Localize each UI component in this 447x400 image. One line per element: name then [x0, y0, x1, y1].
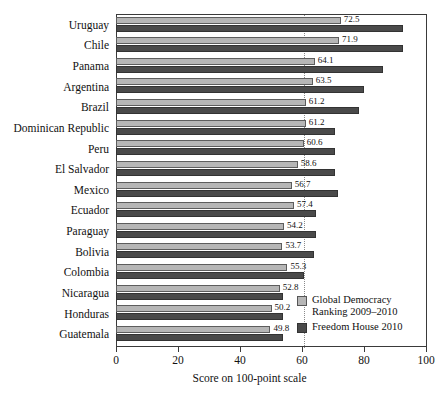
bar-global-democracy-ranking [116, 285, 280, 292]
bar-row: 58.6 [116, 159, 426, 180]
category-label: Brazil [0, 98, 112, 119]
bar-row: 61.2 [116, 118, 426, 139]
bar-row: 64.1 [116, 56, 426, 77]
category-label: Ecuador [0, 201, 112, 222]
bar-row: 54.2 [116, 221, 426, 242]
category-label: Guatemala [0, 324, 112, 345]
category-label: Bolivia [0, 242, 112, 263]
bar-row: 60.6 [116, 139, 426, 160]
bar-row: 61.2 [116, 98, 426, 119]
bar-freedom-house [116, 66, 383, 73]
bar-value-label: 54.2 [284, 219, 303, 231]
category-label: Argentina [0, 77, 112, 98]
category-label: Colombia [0, 263, 112, 284]
bar-value-label: 63.5 [313, 74, 332, 86]
bar-freedom-house [116, 251, 314, 258]
x-axis-tick [116, 347, 117, 352]
bar-value-label: 71.9 [339, 33, 358, 45]
legend-item: Global Democracy Ranking 2009–2010 [297, 294, 423, 318]
category-label: Chile [0, 36, 112, 57]
bar-value-label: 56.7 [292, 178, 311, 190]
category-label: Honduras [0, 304, 112, 325]
bar-global-democracy-ranking [116, 140, 304, 147]
bar-freedom-house [116, 107, 359, 114]
bar-value-label: 58.6 [298, 157, 317, 169]
bar-row: 56.7 [116, 180, 426, 201]
bar-chart: UruguayChilePanamaArgentinaBrazilDominic… [0, 0, 447, 400]
bar-value-label: 72.5 [341, 13, 360, 25]
bar-global-democracy-ranking [116, 37, 339, 44]
bar-row: 55.3 [116, 263, 426, 284]
category-label: Paraguay [0, 221, 112, 242]
bar-global-democracy-ranking [116, 120, 306, 127]
bar-value-label: 61.2 [306, 116, 325, 128]
bar-value-label: 53.7 [282, 239, 301, 251]
bar-global-democracy-ranking [116, 161, 298, 168]
legend-swatch-dark [297, 323, 307, 333]
category-label: El Salvador [0, 159, 112, 180]
bar-value-label: 50.2 [272, 301, 291, 313]
category-axis-labels: UruguayChilePanamaArgentinaBrazilDominic… [0, 15, 112, 345]
x-axis-tick-label: 0 [113, 353, 119, 367]
bar-freedom-house [116, 45, 403, 52]
bar-freedom-house [116, 25, 403, 32]
x-axis-tick [302, 347, 303, 352]
bar-global-democracy-ranking [116, 78, 313, 85]
bar-global-democracy-ranking [116, 223, 284, 230]
category-label: Mexico [0, 180, 112, 201]
x-axis-tick [426, 347, 427, 352]
x-axis-tick [178, 347, 179, 352]
bar-freedom-house [116, 272, 304, 279]
bar-global-democracy-ranking [116, 305, 272, 312]
bar-row: 57.4 [116, 201, 426, 222]
bar-global-democracy-ranking [116, 182, 292, 189]
bar-value-label: 57.4 [294, 198, 313, 210]
bar-freedom-house [116, 169, 335, 176]
bar-freedom-house [116, 231, 316, 238]
bar-value-label: 49.8 [270, 322, 289, 334]
x-axis-title-text: Score on 100-point scale [192, 372, 306, 384]
category-label: Uruguay [0, 15, 112, 36]
legend-swatch-light [297, 296, 307, 306]
category-label: Panama [0, 56, 112, 77]
bar-global-democracy-ranking [116, 326, 270, 333]
chart-legend: Global Democracy Ranking 2009–2010Freedo… [297, 294, 423, 336]
category-label: Peru [0, 139, 112, 160]
legend-item: Freedom House 2010 [297, 321, 423, 333]
x-axis-tick [240, 347, 241, 352]
category-label: Dominican Republic [0, 118, 112, 139]
bar-global-democracy-ranking [116, 58, 315, 65]
bar-freedom-house [116, 334, 283, 341]
bar-freedom-house [116, 313, 283, 320]
bar-global-democracy-ranking [116, 264, 287, 271]
x-axis-title: Score on 100-point scale [0, 372, 447, 384]
x-axis-tick-label: 20 [172, 353, 184, 367]
bar-row: 72.5 [116, 15, 426, 36]
bar-value-label: 61.2 [306, 95, 325, 107]
bar-global-democracy-ranking [116, 202, 294, 209]
bar-row: 71.9 [116, 36, 426, 57]
x-axis-tick-label: 100 [417, 353, 434, 367]
bar-freedom-house [116, 86, 364, 93]
bar-freedom-house [116, 210, 316, 217]
bar-value-label: 64.1 [315, 54, 334, 66]
bar-freedom-house [116, 148, 335, 155]
bar-row: 63.5 [116, 77, 426, 98]
x-axis-tick-label: 80 [358, 353, 370, 367]
bar-value-label: 52.8 [280, 281, 299, 293]
bar-row: 53.7 [116, 242, 426, 263]
bar-value-label: 60.6 [304, 136, 323, 148]
x-axis-tick [364, 347, 365, 352]
category-label: Nicaragua [0, 283, 112, 304]
x-axis-tick-label: 60 [296, 353, 308, 367]
bar-freedom-house [116, 293, 283, 300]
bar-global-democracy-ranking [116, 17, 341, 24]
legend-label: Freedom House 2010 [312, 321, 402, 333]
x-axis-tick-label: 40 [234, 353, 246, 367]
bar-global-democracy-ranking [116, 243, 282, 250]
bar-freedom-house [116, 128, 335, 135]
bar-value-label: 55.3 [287, 260, 306, 272]
x-axis-tick-labels: 020406080100 [116, 353, 427, 369]
bar-freedom-house [116, 190, 338, 197]
bar-global-democracy-ranking [116, 99, 306, 106]
